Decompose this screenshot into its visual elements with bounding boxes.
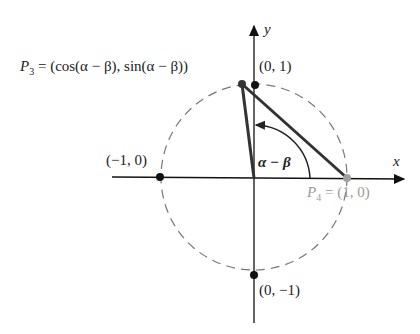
point-bottom	[250, 271, 258, 279]
unit-circle-diagram	[0, 0, 420, 334]
y-axis-label: y	[264, 22, 271, 37]
point-bottom-label: (0, −1)	[259, 283, 300, 298]
point-top-label: (0, 1)	[259, 59, 292, 74]
segment-origin-p3	[242, 84, 254, 178]
x-axis	[112, 177, 404, 179]
p3-label: P3 = (cos(α − β), sin(α − β))	[20, 59, 188, 77]
p4-label: P4 = (1, 0)	[307, 185, 370, 203]
point-p3	[238, 80, 246, 88]
point-p4	[343, 174, 351, 182]
x-axis-label: x	[393, 154, 400, 169]
angle-label: α − β	[258, 155, 291, 170]
point-top	[251, 81, 259, 89]
point-left	[156, 173, 164, 181]
angle-arc	[256, 125, 310, 178]
point-left-label: (−1, 0)	[106, 153, 147, 168]
